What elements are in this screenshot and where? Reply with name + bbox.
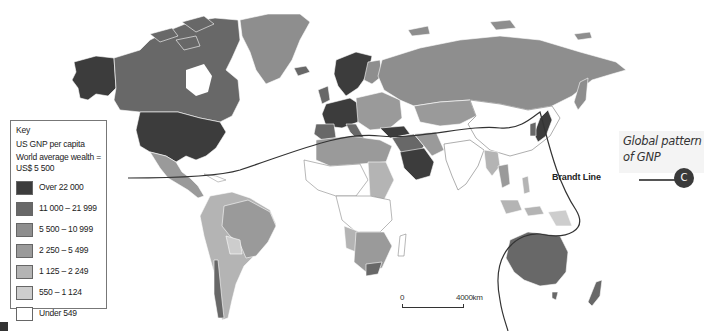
region-canada	[114, 18, 240, 122]
legend-item: 2 250 – 5 499	[16, 240, 101, 261]
scale-start-label: 0	[400, 293, 404, 302]
region-russia	[378, 36, 626, 110]
legend-swatch	[16, 307, 33, 321]
legend-swatch	[16, 244, 33, 258]
legend-item: Under 549	[16, 303, 101, 324]
legend-title: Key	[16, 125, 101, 136]
legend-subtitle: US GNP per capita	[16, 139, 101, 150]
legend-swatch	[16, 286, 33, 300]
region-india	[444, 140, 484, 190]
legend-swatch	[16, 202, 33, 216]
region-north-africa	[316, 136, 392, 166]
scale-end-label: 4000km	[456, 293, 483, 302]
legend-item: Over 22 000	[16, 177, 101, 198]
region-new-zealand	[588, 280, 602, 306]
region-alaska	[72, 56, 116, 100]
figure-badge: C	[674, 168, 694, 188]
brandt-line-label: Brandt Line	[552, 172, 601, 182]
legend-item: 11 000 – 21 999	[16, 198, 101, 219]
region-eastern-europe	[356, 92, 402, 130]
legend-item: 1 125 – 2 249	[16, 261, 101, 282]
region-saudi-arabia	[400, 148, 434, 180]
region-west-africa	[304, 160, 368, 196]
legend-world-average: World average wealth = US$ 5 500	[16, 152, 101, 173]
legend-swatch	[16, 181, 33, 195]
region-iberia	[314, 124, 336, 140]
page-corner-mark	[0, 322, 8, 331]
region-australia	[506, 232, 568, 286]
legend-swatch	[16, 223, 33, 237]
figure-rule	[639, 179, 675, 181]
legend-item: 550 – 1 124	[16, 282, 101, 303]
legend-item: 5 500 – 10 999	[16, 219, 101, 240]
map-legend: Key US GNP per capita World average weal…	[10, 120, 107, 309]
legend-swatch	[16, 265, 33, 279]
scale-bar	[402, 304, 464, 308]
region-uk	[318, 86, 330, 104]
region-western-europe	[322, 98, 362, 128]
figure-title: Global pattern of GNP	[619, 131, 704, 173]
